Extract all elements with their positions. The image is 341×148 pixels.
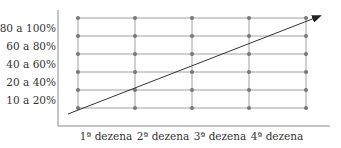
x-tick-label: 3ª dezena bbox=[194, 130, 247, 142]
y-tick-label: 80 a 100% bbox=[0, 22, 56, 34]
x-tick-label: 2ª dezena bbox=[137, 130, 190, 142]
x-tick-label: 1ª dezena bbox=[80, 130, 133, 142]
y-tick-label: 20 a 40% bbox=[6, 76, 56, 88]
y-tick-label: 10 a 20% bbox=[6, 94, 56, 106]
y-tick-label: 60 a 80% bbox=[6, 40, 56, 52]
x-tick-label: 4ª dezena bbox=[251, 130, 304, 142]
grid bbox=[78, 18, 306, 108]
trend-arrow bbox=[68, 16, 320, 114]
y-tick-label: 40 a 60% bbox=[6, 58, 56, 70]
axes bbox=[58, 10, 330, 126]
